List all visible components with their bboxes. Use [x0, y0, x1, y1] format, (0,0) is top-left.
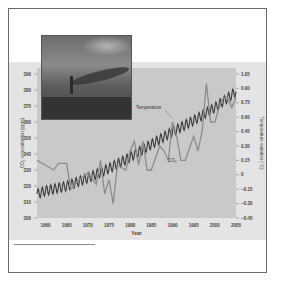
y-left-axis-label: CO₂ concentration (ppm) — [20, 118, 25, 168]
y-right-tick-label: 0 — [241, 172, 244, 177]
y-right-tick-label: −0.30 — [241, 201, 253, 206]
y-right-tick-label: 0.30 — [241, 144, 250, 149]
y-left-tick-label: 380 — [23, 88, 31, 93]
y-right-tick-label: −0.45 — [241, 216, 253, 221]
y-right-axis-label: Temperature variation (°C) — [259, 117, 264, 170]
x-tick-label: 2000 — [210, 223, 221, 228]
co2-annotation: CO₂ — [168, 158, 177, 163]
y-right-tick-label: 0.60 — [241, 115, 250, 120]
smoke-plume — [70, 64, 131, 88]
x-tick-label: 1970 — [83, 223, 94, 228]
ground — [42, 97, 131, 119]
smokestack-photo — [41, 35, 132, 120]
y-right-tick-label: 0.75 — [241, 100, 250, 105]
x-axis-label: Year — [131, 230, 142, 236]
smokestack — [70, 76, 73, 94]
x-tick-label: 1960 — [40, 223, 51, 228]
y-right-tick-label: −0.15 — [241, 187, 253, 192]
y-right-tick-label: 0.15 — [241, 158, 250, 163]
copyright-caption: ▬▬▬▬▬▬▬▬▬▬▬▬▬▬▬▬▬▬▬▬▬▬▬▬▬▬▬ — [14, 242, 95, 246]
x-tick-label: 1985 — [146, 223, 157, 228]
y-left-tick-label: 310 — [23, 200, 31, 205]
temperature-annotation: Temperature — [136, 105, 162, 110]
y-right-tick-label: 0.45 — [241, 129, 250, 134]
x-tick-label: 1990 — [167, 223, 178, 228]
y-left-tick-label: 320 — [23, 184, 31, 189]
sun-glow — [82, 36, 132, 56]
y-left-tick-label: 390 — [23, 72, 31, 77]
y-left-tick-label: 370 — [23, 104, 31, 109]
y-left-tick-label: 300 — [23, 216, 31, 221]
y-right-tick-label: 1.05 — [241, 72, 250, 77]
x-tick-label: 1980 — [125, 223, 136, 228]
x-tick-label: 1975 — [104, 223, 115, 228]
x-tick-label: 1995 — [189, 223, 200, 228]
x-tick-label: 2005 — [231, 223, 242, 228]
x-tick-label: 1965 — [62, 223, 73, 228]
y-right-tick-label: 0.90 — [241, 86, 250, 91]
